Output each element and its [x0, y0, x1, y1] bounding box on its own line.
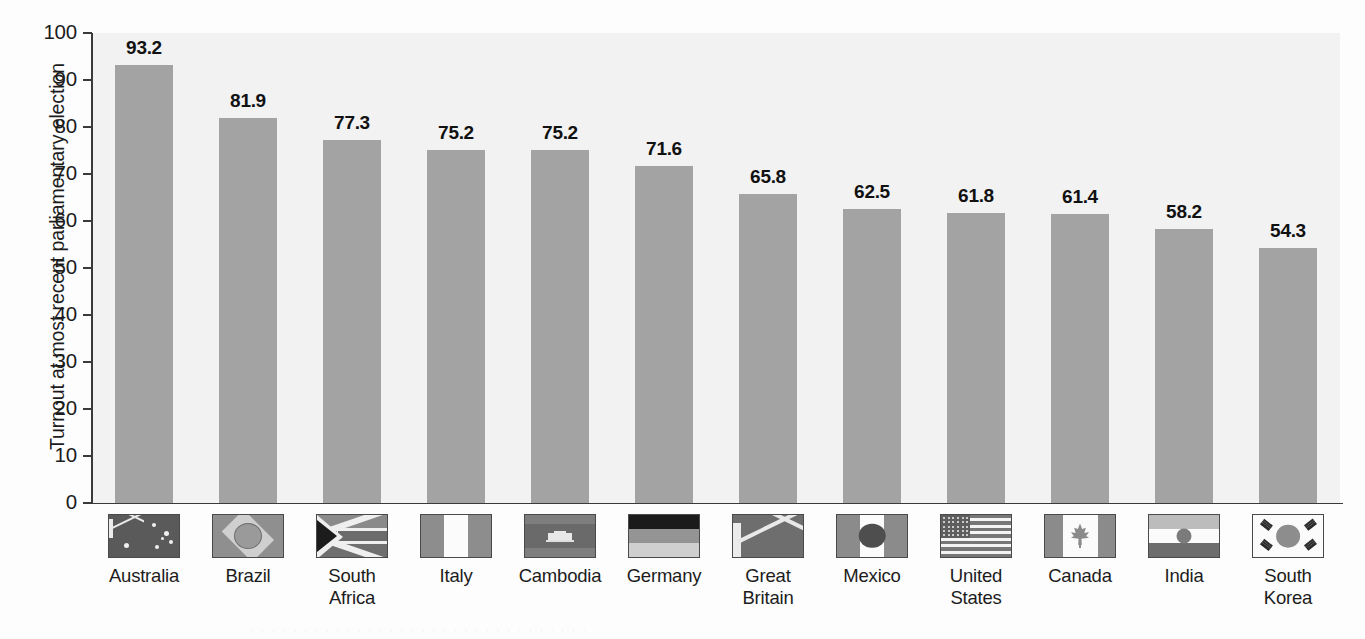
uj-diagonal: [737, 515, 803, 543]
bar-column[interactable]: 62.5: [820, 33, 924, 503]
bar-value-label: 61.8: [924, 185, 1028, 207]
y-tick-label: 10: [55, 443, 77, 467]
category-column[interactable]: UnitedStates: [924, 503, 1028, 639]
category-column[interactable]: Germany: [612, 503, 716, 639]
y-tick-mark: [83, 220, 92, 222]
taegeuk: [1276, 525, 1300, 548]
flag-south-africa-icon: [316, 514, 388, 558]
bar-column[interactable]: 81.9: [196, 33, 300, 503]
bar-value-label: 54.3: [1236, 220, 1340, 242]
category-column[interactable]: SouthKorea: [1236, 503, 1340, 639]
star: [948, 530, 950, 532]
bar[interactable]: [635, 166, 693, 503]
band-green: [1149, 543, 1219, 557]
bar-column[interactable]: 54.3: [1236, 33, 1340, 503]
y-tick-label: 60: [55, 208, 77, 232]
star: [948, 526, 950, 528]
category-column[interactable]: Mexico: [820, 503, 924, 639]
category-label-line: South: [1226, 565, 1350, 587]
band-saffron: [1149, 515, 1219, 529]
category-column[interactable]: Cambodia: [508, 503, 612, 639]
bar[interactable]: [219, 118, 277, 503]
y-tick-mark: [83, 408, 92, 410]
y-tick-mark: [83, 502, 92, 504]
star: [943, 530, 945, 532]
band-white: [444, 515, 467, 557]
bar-value-label: 75.2: [404, 122, 508, 144]
flag-india-icon: [1148, 514, 1220, 558]
bar-value-label: 71.6: [612, 138, 716, 160]
category-column[interactable]: SouthAfrica: [300, 503, 404, 639]
bar-value-label: 93.2: [92, 37, 196, 59]
bar[interactable]: [1155, 229, 1213, 503]
bar-column[interactable]: 58.2: [1132, 33, 1236, 503]
bar-column[interactable]: 71.6: [612, 33, 716, 503]
y-tick-mark: [83, 314, 92, 316]
stripe: [941, 554, 1011, 557]
category-column[interactable]: India: [1132, 503, 1236, 639]
bar-value-label: 81.9: [196, 90, 300, 112]
bar[interactable]: [739, 194, 797, 503]
bar[interactable]: [947, 213, 1005, 503]
category-label-line: Africa: [290, 587, 414, 609]
bar-column[interactable]: 75.2: [404, 33, 508, 503]
star: [966, 530, 968, 532]
stripe: [941, 547, 1011, 550]
category-column[interactable]: Brazil: [196, 503, 300, 639]
y-tick-label: 90: [55, 67, 77, 91]
bar-value-label: 65.8: [716, 166, 820, 188]
black-wedge: [317, 520, 337, 552]
y-tick-label: 20: [55, 396, 77, 420]
flag-great-britain-icon: [732, 514, 804, 558]
trigram: [1258, 539, 1272, 553]
bar-column[interactable]: 61.4: [1028, 33, 1132, 503]
bar-column[interactable]: 93.2: [92, 33, 196, 503]
y-tick-label: 0: [66, 490, 77, 514]
y-tick-label: 40: [55, 302, 77, 326]
y-tick-label: 50: [55, 255, 77, 279]
bar[interactable]: [115, 65, 173, 503]
star: [155, 545, 159, 549]
flag-south-korea-icon: [1252, 514, 1324, 558]
bar-value-label: 77.3: [300, 112, 404, 134]
eagle-emblem: [859, 524, 886, 548]
bar[interactable]: [531, 150, 589, 503]
category-column[interactable]: GreatBritain: [716, 503, 820, 639]
category-column[interactable]: Australia: [92, 503, 196, 639]
star: [957, 526, 959, 528]
star: [957, 534, 959, 536]
y-tick-mark: [83, 455, 92, 457]
star: [124, 543, 129, 548]
star: [948, 517, 950, 519]
y-tick-label: 70: [55, 161, 77, 185]
star: [962, 517, 964, 519]
globe: [234, 523, 262, 549]
y-tick-label: 100: [43, 20, 77, 44]
bar-column[interactable]: 75.2: [508, 33, 612, 503]
bar-column[interactable]: 77.3: [300, 33, 404, 503]
category-column[interactable]: Italy: [404, 503, 508, 639]
bar-value-label: 62.5: [820, 181, 924, 203]
bar[interactable]: [323, 140, 381, 503]
bar[interactable]: [843, 209, 901, 503]
category-label: SouthKorea: [1226, 565, 1350, 609]
flag-germany-icon: [628, 514, 700, 558]
star: [962, 526, 964, 528]
ashoka-chakra: [1177, 529, 1192, 544]
y-tick-mark: [83, 32, 92, 34]
category-column[interactable]: Canada: [1028, 503, 1132, 639]
star: [957, 530, 959, 532]
union-jack: [109, 515, 144, 538]
bar[interactable]: [1259, 248, 1317, 503]
bar-column[interactable]: 61.8: [924, 33, 1028, 503]
category-label-line: States: [914, 587, 1038, 609]
y-tick-mark: [83, 173, 92, 175]
bar[interactable]: [427, 150, 485, 503]
bar-value-label: 58.2: [1132, 201, 1236, 223]
flag-brazil-icon: [212, 514, 284, 558]
bar-column[interactable]: 65.8: [716, 33, 820, 503]
y-tick-mark: [83, 361, 92, 363]
bar[interactable]: [1051, 214, 1109, 503]
union-jack: [733, 515, 803, 557]
flag-italy-icon: [420, 514, 492, 558]
